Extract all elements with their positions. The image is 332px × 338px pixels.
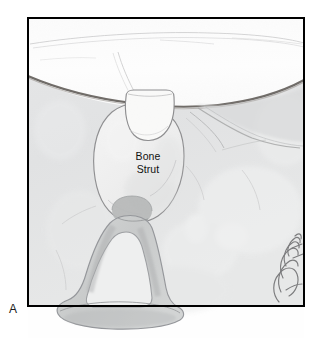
illustration-content: [28, 18, 315, 338]
figure-root: Bone Strut A: [0, 0, 332, 338]
paper-grain-overlay: [28, 18, 304, 338]
bone-strut-label-line-2: Strut: [112, 163, 184, 176]
panel-label: A: [9, 303, 17, 315]
bone-strut-label-line-1: Bone: [112, 150, 184, 163]
bone-strut-label: Bone Strut: [112, 150, 184, 175]
